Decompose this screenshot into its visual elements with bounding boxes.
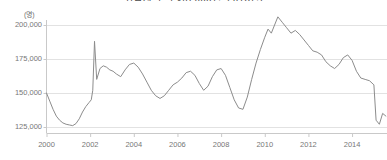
x-axis-tick-label: 2014 [344,141,361,149]
line-chart: 취업자 수 추이(2000년~2015년) (명) 200,000175,000… [0,0,387,160]
x-axis-tick-label: 2008 [213,141,230,149]
gridlines [44,26,387,128]
x-axis-labels: 20002002200420062008201020122014 [0,137,387,149]
x-axis-tick-label: 2000 [38,141,55,149]
x-axis-tick-label: 2002 [82,141,99,149]
plot-area [0,0,387,160]
x-axis-tick-label: 2006 [169,141,186,149]
x-axis-tick-label: 2010 [256,141,273,149]
x-axis-tick-label: 2012 [300,141,317,149]
data-series-group [47,17,386,126]
data-series-line [47,17,386,126]
x-axis-tick-label: 2004 [125,141,142,149]
